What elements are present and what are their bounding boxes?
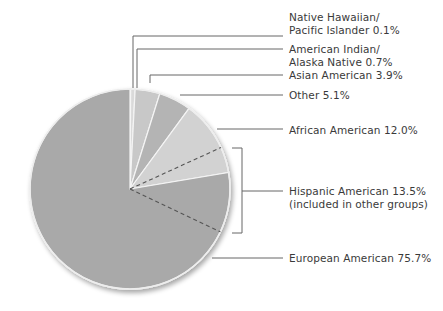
label-other: Other 5.1% <box>289 89 350 102</box>
label-hispanic-american: Hispanic American 13.5% (included in oth… <box>289 185 428 211</box>
label-asian-american: Asian American 3.9% <box>289 69 403 82</box>
leader-line-as <box>150 75 283 83</box>
leader-line-ai <box>137 49 283 88</box>
label-native-hawaiian: Native Hawaiian/ Pacific Islander 0.1% <box>289 11 400 37</box>
label-american-indian: American Indian/ Alaska Native 0.7% <box>289 43 392 69</box>
label-european-american: European American 75.7% <box>289 252 431 265</box>
leader-line-nh <box>133 36 283 88</box>
leader-line-hi <box>232 148 242 233</box>
label-african-american: African American 12.0% <box>289 124 418 137</box>
